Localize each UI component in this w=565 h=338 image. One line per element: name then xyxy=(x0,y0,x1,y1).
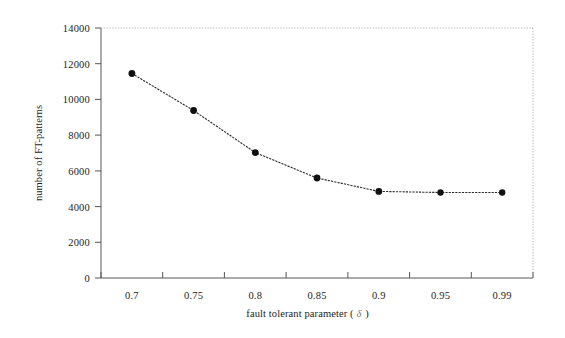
y-tick-label: 8000 xyxy=(68,130,90,141)
y-tick-label: 6000 xyxy=(68,166,90,177)
x-tick-label: 0.9 xyxy=(372,290,386,301)
chart-figure: 14000 12000 10000 8000 6000 4000 2000 0 … xyxy=(0,0,565,338)
data-point xyxy=(314,175,321,182)
plot-area-background xyxy=(101,28,533,278)
x-tick-label: 0.85 xyxy=(307,290,326,301)
x-axis-title: fault tolerant parameter ( δ ) xyxy=(246,308,369,320)
x-tick-label: 0.95 xyxy=(431,290,450,301)
y-tick-label: 0 xyxy=(85,273,90,284)
line-chart: 14000 12000 10000 8000 6000 4000 2000 0 … xyxy=(0,0,565,338)
x-tick-label: 0.7 xyxy=(125,290,139,301)
x-axis-title-text: fault tolerant parameter ( xyxy=(246,308,354,320)
data-point xyxy=(437,189,443,195)
x-tick-label: 0.8 xyxy=(248,290,262,301)
data-point xyxy=(375,188,382,195)
y-tick-label: 4000 xyxy=(68,202,90,213)
x-tick-label: 0.99 xyxy=(493,290,512,301)
data-point xyxy=(190,107,197,114)
y-axis-title: number of FT-patterns xyxy=(33,105,44,201)
x-tick-label: 0.75 xyxy=(184,290,203,301)
y-tick-label: 14000 xyxy=(63,23,90,34)
data-point xyxy=(129,70,136,77)
y-tick-label: 12000 xyxy=(63,59,90,70)
y-tick-label: 10000 xyxy=(63,94,90,105)
data-point xyxy=(499,189,505,195)
data-point xyxy=(252,149,259,156)
y-tick-label: 2000 xyxy=(68,237,90,248)
x-axis-title-close-paren: ) xyxy=(365,308,369,320)
